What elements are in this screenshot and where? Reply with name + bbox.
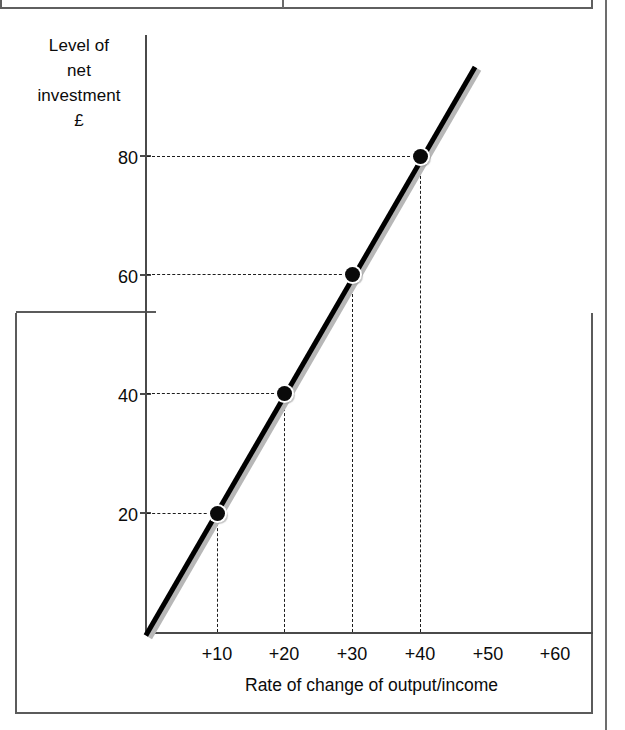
y-axis-title-line-2: net	[20, 58, 138, 83]
y-tick-label-40: 40	[92, 387, 138, 405]
y-axis-line	[145, 35, 147, 635]
x-tick-label-40: +40	[390, 645, 450, 663]
guide-vertical-20	[284, 393, 285, 632]
y-axis-title: Level of net investment £	[20, 33, 138, 133]
guide-horizontal-80	[147, 156, 420, 157]
guide-horizontal-40	[147, 393, 284, 394]
guide-vertical-10	[217, 513, 218, 632]
guide-horizontal-20	[147, 513, 217, 514]
investment-line-chart: Level of net investment £ Rate of change…	[0, 0, 625, 730]
x-axis-title: Rate of change of output/income	[245, 675, 498, 696]
data-point-10-20	[210, 506, 225, 521]
y-tick-label-60: 60	[92, 268, 138, 286]
x-tick-label-60: +60	[525, 645, 585, 663]
y-tick-label-80: 80	[92, 149, 138, 167]
data-point-20-40	[277, 386, 292, 401]
y-axis-title-line-3: investment	[20, 83, 138, 108]
x-tick-label-10: +10	[187, 645, 247, 663]
x-tick-label-30: +30	[322, 645, 382, 663]
data-point-40-80	[413, 149, 428, 164]
guide-horizontal-60	[147, 274, 352, 275]
x-tick-label-50: +50	[458, 645, 518, 663]
x-axis-line	[145, 632, 593, 634]
x-tick-label-20: +20	[254, 645, 314, 663]
investment-line	[144, 66, 478, 637]
data-point-30-60	[345, 267, 360, 282]
y-tick-label-20: 20	[92, 506, 138, 524]
y-axis-title-line-1: Level of	[20, 33, 138, 58]
y-axis-title-line-4: £	[20, 108, 138, 133]
guide-vertical-40	[420, 156, 421, 632]
guide-vertical-30	[352, 274, 353, 632]
